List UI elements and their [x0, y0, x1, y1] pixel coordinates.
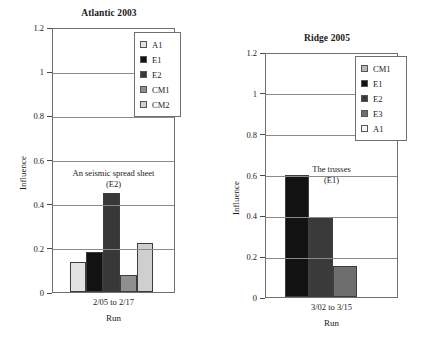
y-tick-label: 0 — [10, 288, 44, 298]
y-tick-label: 1 — [10, 67, 44, 77]
legend-label: E1 — [152, 55, 161, 65]
legend-label: E3 — [373, 109, 382, 119]
legend-label: CM1 — [373, 64, 390, 74]
y-tick-mark — [260, 257, 265, 258]
y-tick-label: 0.2 — [223, 252, 257, 262]
y-tick-label: 1.2 — [223, 48, 257, 58]
y-tick-label: 0.6 — [223, 171, 257, 181]
legend-item-cm2[interactable]: CM2 — [140, 97, 174, 112]
legend-label: E2 — [373, 94, 382, 104]
bar-a1 — [70, 262, 87, 292]
legend-swatch-icon — [361, 110, 368, 117]
bar-e1 — [86, 252, 103, 292]
y-tick-label: 0.8 — [10, 111, 44, 121]
y-tick-mark — [47, 248, 52, 249]
y-tick-mark — [47, 204, 52, 205]
legend-swatch-icon — [140, 101, 147, 108]
bar-cm1 — [120, 275, 137, 292]
gridline — [53, 249, 174, 250]
annotation-right-line1: The trusses — [265, 164, 398, 175]
x-category-label-left: 2/05 to 2/17 — [52, 297, 175, 307]
bar-e1 — [285, 175, 309, 298]
legend-label: A1 — [373, 124, 383, 134]
bar-cm2 — [137, 243, 154, 292]
y-tick-label: 1.2 — [10, 23, 44, 33]
x-axis-title-right: Run — [265, 318, 398, 328]
legend-label: CM1 — [152, 85, 169, 95]
two-panel-bar-chart-figure: Atlantic 2003 Influence 00.20.40.60.811.… — [0, 0, 436, 340]
y-tick-label: 0.6 — [10, 156, 44, 166]
legend-swatch-icon — [140, 41, 147, 48]
legend-swatch-icon — [361, 125, 368, 132]
y-tick-label: 0.4 — [10, 200, 44, 210]
x-category-label-right: 3/02 to 3/15 — [265, 302, 398, 312]
y-tick-mark — [47, 28, 52, 29]
y-tick-mark — [260, 53, 265, 54]
x-axis-title-left: Run — [52, 313, 175, 323]
y-tick-mark — [47, 293, 52, 294]
y-tick-mark — [260, 298, 265, 299]
legend-label: CM2 — [152, 100, 169, 110]
y-tick-mark — [47, 116, 52, 117]
y-tick-mark — [260, 216, 265, 217]
legend-item-e1[interactable]: E1 — [140, 52, 174, 67]
legend-label: E1 — [373, 79, 382, 89]
legend-item-e2[interactable]: E2 — [140, 67, 174, 82]
bar-e3 — [333, 266, 357, 297]
legend-item-cm1[interactable]: CM1 — [140, 82, 174, 97]
legend-item-e1[interactable]: E1 — [361, 76, 400, 91]
legend-right: CM1E1E2E3A1 — [355, 56, 407, 141]
annotation-right-line2: (E1) — [265, 175, 398, 186]
annotation-left-line2: (E2) — [52, 179, 175, 190]
gridline — [266, 217, 397, 218]
legend-item-e2[interactable]: E2 — [361, 91, 400, 106]
legend-item-a1[interactable]: A1 — [140, 37, 174, 52]
y-tick-mark — [47, 72, 52, 73]
legend-swatch-icon — [140, 86, 147, 93]
y-tick-mark — [260, 134, 265, 135]
legend-swatch-icon — [140, 71, 147, 78]
chart-panel-atlantic-2003: Atlantic 2003 Influence 00.20.40.60.811.… — [0, 0, 218, 340]
gridline — [53, 205, 174, 206]
annotation-right: The trusses (E1) — [265, 164, 398, 185]
y-tick-label: 0 — [223, 293, 257, 303]
y-tick-label: 0.2 — [10, 244, 44, 254]
legend-swatch-icon — [140, 56, 147, 63]
legend-item-cm1[interactable]: CM1 — [361, 61, 400, 76]
annotation-left: An seismic spread sheet (E2) — [52, 168, 175, 189]
legend-left: A1E1E2CM1CM2 — [134, 32, 181, 117]
legend-label: A1 — [152, 40, 162, 50]
y-tick-mark — [260, 93, 265, 94]
chart-title-left: Atlantic 2003 — [0, 8, 218, 18]
legend-item-a1[interactable]: A1 — [361, 121, 400, 136]
legend-swatch-icon — [361, 80, 368, 87]
y-tick-label: 1 — [223, 89, 257, 99]
chart-title-right: Ridge 2005 — [218, 33, 436, 43]
y-tick-label: 0.4 — [223, 211, 257, 221]
bar-e2 — [103, 193, 120, 292]
legend-swatch-icon — [361, 95, 368, 102]
legend-item-e3[interactable]: E3 — [361, 106, 400, 121]
gridline — [53, 161, 174, 162]
chart-panel-ridge-2005: Ridge 2005 Influence 00.20.40.60.811.2 T… — [218, 0, 436, 340]
legend-label: E2 — [152, 70, 161, 80]
legend-swatch-icon — [361, 65, 368, 72]
y-tick-label: 0.8 — [223, 130, 257, 140]
annotation-left-line1: An seismic spread sheet — [52, 168, 175, 179]
gridline — [266, 258, 397, 259]
y-tick-mark — [47, 160, 52, 161]
